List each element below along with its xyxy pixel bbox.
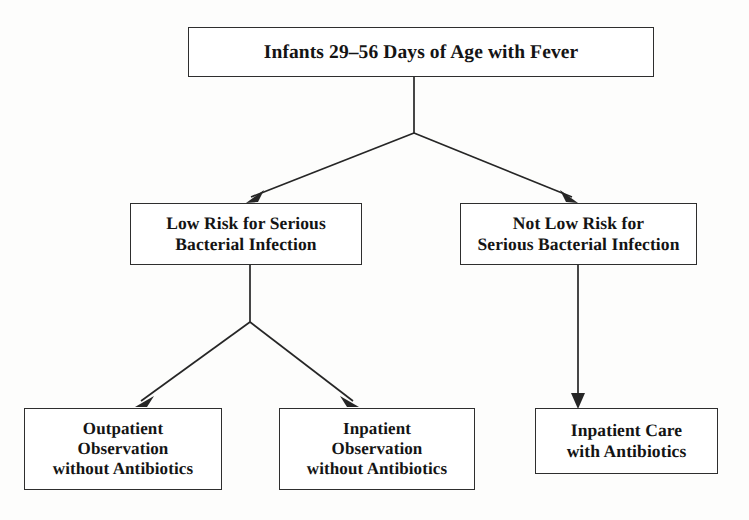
node-low-risk-label: Low Risk for Serious Bacterial Infection <box>160 213 332 254</box>
arrowhead-root-to-not-low-risk <box>560 190 578 203</box>
edge-root-to-low-risk <box>251 133 414 197</box>
node-inpatient-observation[interactable]: Inpatient Observation without Antibiotic… <box>279 408 475 490</box>
node-outpatient-observation-label: Outpatient Observation without Antibioti… <box>47 419 199 479</box>
node-root-infants-with-fever[interactable]: Infants 29–56 Days of Age with Fever <box>188 27 654 77</box>
node-low-risk[interactable]: Low Risk for Serious Bacterial Infection <box>130 203 362 265</box>
edge-low-risk-to-inpatient-observation <box>250 322 353 401</box>
node-inpatient-care-label: Inpatient Care with Antibiotics <box>561 420 693 461</box>
node-root-label: Infants 29–56 Days of Age with Fever <box>258 41 585 64</box>
node-not-low-risk-label: Not Low Risk for Serious Bacterial Infec… <box>472 213 686 254</box>
arrowhead-root-to-low-risk <box>246 190 264 203</box>
arrowhead-low-risk-to-outpatient <box>135 396 154 407</box>
arrowhead-low-risk-to-inpatient-observation <box>340 396 359 407</box>
node-not-low-risk[interactable]: Not Low Risk for Serious Bacterial Infec… <box>460 203 697 265</box>
edge-low-risk-to-outpatient <box>141 322 250 401</box>
flowchart-canvas: Infants 29–56 Days of Age with Fever Low… <box>0 0 749 520</box>
arrowhead-not-low-risk-to-inpatient-care <box>571 393 585 409</box>
node-outpatient-observation[interactable]: Outpatient Observation without Antibioti… <box>24 408 222 490</box>
node-inpatient-observation-label: Inpatient Observation without Antibiotic… <box>301 419 453 479</box>
edge-root-to-not-low-risk <box>414 133 572 197</box>
node-inpatient-care[interactable]: Inpatient Care with Antibiotics <box>535 408 718 474</box>
